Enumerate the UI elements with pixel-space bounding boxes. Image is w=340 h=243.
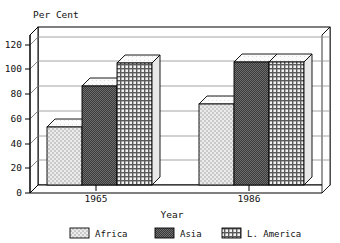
legend-swatch-asia [155,228,174,238]
y-tick-label-20: 20 [11,162,23,173]
y-tick-label-0: 0 [16,187,22,198]
legend-item-asia[interactable]: Asia [155,228,202,239]
y-tick-label-120: 120 [5,39,22,50]
legend: Africa Asia L. America [70,228,301,239]
y-tick-label-60: 60 [11,113,23,124]
legend-swatch-africa [70,228,89,238]
y-axis-tick-labels: 120 100 80 60 40 20 0 [5,39,22,198]
y-tick-label-40: 40 [11,138,23,149]
x-axis-title: Year [161,209,184,220]
x-tick-label-1986: 1986 [238,193,261,204]
legend-item-lamerica[interactable]: L. America [222,228,301,239]
y-tick-label-100: 100 [5,63,22,74]
legend-swatch-lamerica [222,228,241,238]
bar-lamerica-1986[interactable] [269,54,312,185]
legend-label-lamerica: L. America [247,229,301,239]
legend-label-asia: Asia [180,229,202,239]
x-tick-label-1965: 1965 [85,193,108,204]
legend-label-africa: Africa [95,229,128,239]
y-axis-title: Per Cent [33,9,79,20]
chart-container: 120 100 80 60 40 20 0 Per Cent [0,0,340,243]
y-axis-ticks [25,35,30,193]
bar-chart: 120 100 80 60 40 20 0 Per Cent [0,0,340,243]
bar-lamerica-1965[interactable] [117,55,160,185]
y-tick-label-80: 80 [11,88,23,99]
legend-item-africa[interactable]: Africa [70,228,128,239]
